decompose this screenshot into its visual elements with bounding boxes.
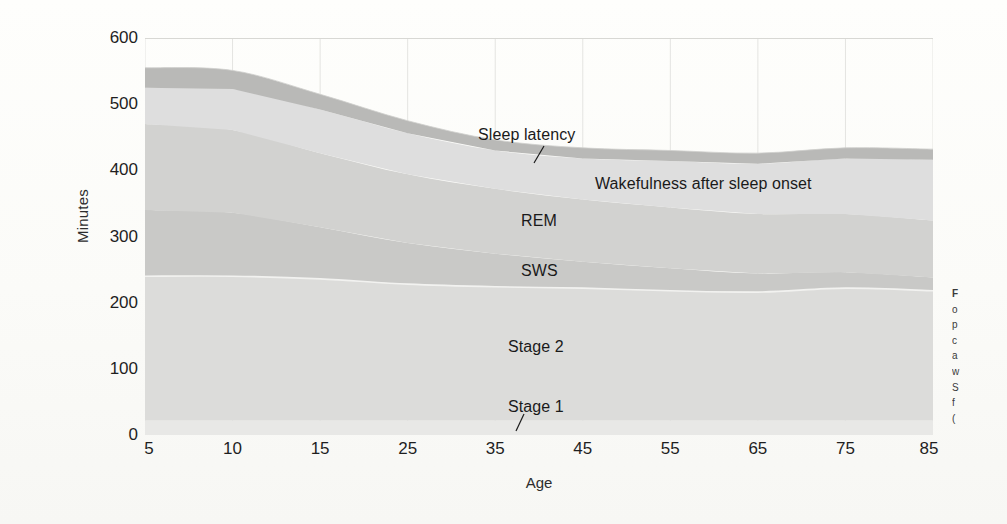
x-tick-label: 55	[661, 440, 680, 457]
annotation-stage-2: Stage 2	[508, 338, 564, 356]
sleep-architecture-figure: Minutes 0100200300400500600 510152535455…	[0, 0, 1007, 524]
annotation-sleep-latency: Sleep latency	[478, 126, 575, 144]
caption-line: w	[952, 364, 1007, 380]
caption-line: p	[952, 317, 1007, 333]
figure-caption: FopcawSf(	[952, 286, 1007, 466]
caption-line: f	[952, 395, 1007, 411]
caption-line: S	[952, 380, 1007, 396]
caption-line: (	[952, 411, 1007, 427]
caption-line: F	[952, 286, 1007, 302]
x-tick-label: 85	[920, 440, 939, 457]
x-tick-label: 10	[223, 440, 242, 457]
annotation-rem: REM	[521, 212, 557, 230]
caption-line: o	[952, 302, 1007, 318]
x-tick-label: 65	[748, 440, 767, 457]
caption-line: a	[952, 348, 1007, 364]
plot-area	[145, 38, 933, 435]
x-tick-label: 45	[573, 440, 592, 457]
annotation-sws: SWS	[521, 262, 558, 280]
x-axis-title: Age	[145, 474, 933, 491]
x-tick-label: 5	[144, 440, 153, 457]
annotation-stage-1: Stage 1	[508, 398, 564, 416]
x-tick-label: 15	[311, 440, 330, 457]
area-band-stage-1	[145, 420, 933, 435]
x-tick-label: 75	[836, 440, 855, 457]
caption-line: c	[952, 333, 1007, 349]
x-tick-label: 35	[486, 440, 505, 457]
x-tick-label: 25	[398, 440, 417, 457]
annotation-waso: Wakefulness after sleep onset	[595, 175, 812, 193]
stacked-area-svg	[145, 38, 933, 435]
